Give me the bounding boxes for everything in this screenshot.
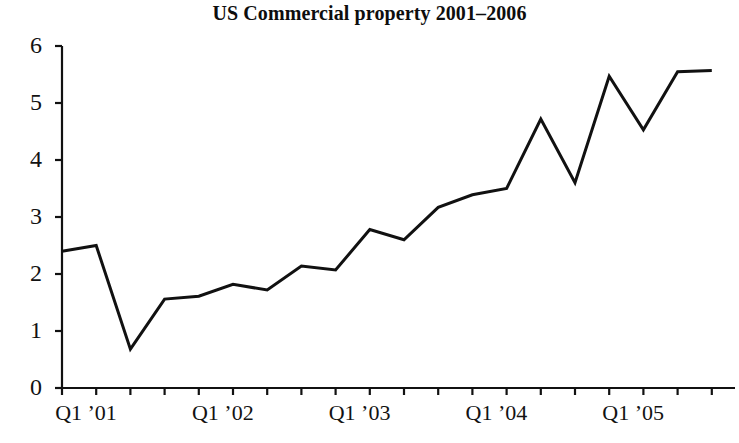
y-tick-label: 5 — [8, 90, 42, 114]
x-tick-label: Q1 ’02 — [163, 402, 283, 424]
y-tick-label: 1 — [8, 318, 42, 342]
chart-plot-area — [0, 0, 739, 443]
y-tick-label: 3 — [8, 204, 42, 228]
x-axis-group — [62, 388, 735, 395]
data-series-line — [62, 71, 712, 350]
y-tick-label: 6 — [8, 33, 42, 57]
chart-figure: US Commercial property 2001–2006 0123456… — [0, 0, 739, 443]
x-tick-label: Q1 ’03 — [300, 402, 420, 424]
y-tick-label: 2 — [8, 261, 42, 285]
y-axis-group — [55, 46, 62, 388]
x-tick-label: Q1 ’04 — [436, 402, 556, 424]
x-tick-label: Q1 ’05 — [573, 402, 693, 424]
y-tick-label: 0 — [8, 375, 42, 399]
y-tick-label: 4 — [8, 147, 42, 171]
x-tick-label: Q1 ’01 — [26, 402, 146, 424]
